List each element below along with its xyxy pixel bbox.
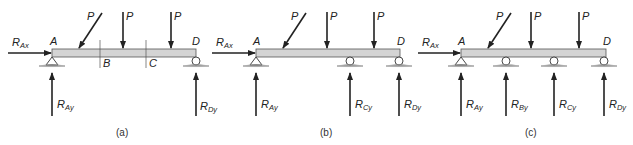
point-label-d: D	[603, 35, 611, 47]
panel-c: RAx A D P P P RAy RBy RCy RDy (c)	[418, 10, 627, 138]
roller-support-icon	[600, 57, 608, 65]
point-label-a: A	[252, 35, 260, 47]
label-rax: RAx	[12, 36, 29, 50]
point-label-d: D	[192, 35, 200, 47]
roller-support-icon	[395, 57, 403, 65]
label-ray: RAy	[261, 98, 279, 112]
label-rcy: RCy	[355, 98, 373, 112]
label-rdy: RDy	[404, 98, 422, 112]
load-label-p2: P	[330, 10, 338, 22]
ground-icon	[590, 64, 618, 70]
beam-diagram: RAx A B C D P P P RAy RDy (a) RAx A D P	[0, 0, 633, 145]
load-label-p2: P	[534, 10, 542, 22]
ground-icon	[38, 64, 66, 70]
label-rax: RAx	[216, 36, 233, 50]
roller-support-icon	[192, 57, 200, 65]
roller-support-icon	[502, 57, 510, 65]
load-label-p1: P	[291, 10, 299, 22]
load-label-p3: P	[377, 10, 385, 22]
beam	[256, 49, 400, 57]
pin-support-icon	[46, 57, 58, 65]
ground-icon	[492, 64, 520, 70]
caption-c: (c)	[525, 127, 537, 138]
label-ray: RAy	[466, 98, 484, 112]
point-label-d: D	[397, 35, 405, 47]
load-label-p1: P	[87, 10, 95, 22]
roller-support-icon	[346, 57, 354, 65]
label-rby: RBy	[511, 98, 529, 112]
label-rcy: RCy	[559, 98, 577, 112]
load-label-p3: P	[582, 10, 590, 22]
load-label-p1: P	[496, 10, 504, 22]
point-label-a: A	[49, 35, 57, 47]
load-label-p3: P	[174, 10, 182, 22]
ground-icon	[447, 64, 475, 70]
point-label-a: A	[457, 35, 465, 47]
ground-icon	[336, 64, 364, 70]
label-rdy: RDy	[609, 98, 627, 112]
caption-b: (b)	[320, 127, 332, 138]
pin-support-icon	[455, 57, 467, 65]
panel-a: RAx A B C D P P P RAy RDy (a)	[8, 10, 218, 138]
beam	[461, 49, 606, 57]
label-rax: RAx	[422, 36, 439, 50]
ground-icon	[182, 64, 210, 70]
label-ray: RAy	[57, 98, 75, 112]
load-label-p2: P	[126, 10, 134, 22]
roller-support-icon	[550, 57, 558, 65]
ground-icon	[385, 64, 413, 70]
caption-a: (a)	[116, 127, 128, 138]
ground-icon	[540, 64, 568, 70]
ground-icon	[242, 64, 270, 70]
pin-support-icon	[250, 57, 262, 65]
point-label-c: C	[149, 57, 157, 69]
point-label-b: B	[103, 57, 110, 69]
label-rdy: RDy	[200, 100, 218, 114]
panel-b: RAx A D P P P RAy RCy RDy (b)	[212, 10, 422, 138]
beam	[52, 49, 196, 57]
